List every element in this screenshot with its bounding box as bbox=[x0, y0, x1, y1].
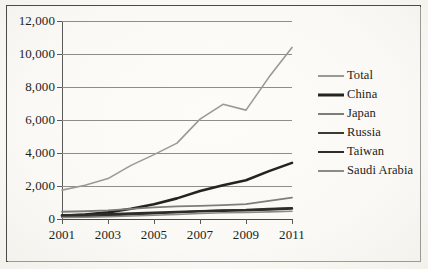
x-axis-label: 2011 bbox=[279, 227, 305, 243]
figure-page: 02,0004,0006,0008,00010,00012,000 200120… bbox=[0, 0, 428, 269]
series-line-china bbox=[62, 163, 292, 216]
legend-item-saudi-arabia[interactable]: Saudi Arabia bbox=[318, 161, 422, 180]
x-tick-2011 bbox=[292, 219, 293, 224]
legend-swatch-russia bbox=[318, 127, 344, 139]
x-tick-2001 bbox=[62, 219, 63, 224]
legend-label-total: Total bbox=[344, 68, 373, 83]
legend-label-saudi-arabia: Saudi Arabia bbox=[344, 163, 413, 178]
legend-swatch-china bbox=[318, 89, 344, 101]
legend-item-total[interactable]: Total bbox=[318, 66, 422, 85]
legend-swatch-saudi-arabia bbox=[318, 165, 344, 177]
chart-legend: TotalChinaJapanRussiaTaiwanSaudi Arabia bbox=[318, 66, 422, 180]
legend-label-taiwan: Taiwan bbox=[344, 144, 384, 159]
plot-area: 02,0004,0006,0008,00010,00012,000 200120… bbox=[62, 21, 292, 219]
x-axis-label: 2001 bbox=[49, 227, 75, 243]
y-axis-label: 0 bbox=[48, 211, 55, 227]
x-axis-label: 2005 bbox=[141, 227, 167, 243]
y-axis-label: 8,000 bbox=[25, 79, 55, 95]
series-line-total bbox=[62, 47, 292, 190]
y-axis-label: 6,000 bbox=[25, 112, 55, 128]
series-lines bbox=[62, 21, 292, 219]
x-tick-2009 bbox=[246, 219, 247, 224]
x-axis-label: 2003 bbox=[95, 227, 121, 243]
legend-label-china: China bbox=[344, 87, 377, 102]
legend-item-russia[interactable]: Russia bbox=[318, 123, 422, 142]
x-tick-2007 bbox=[200, 219, 201, 224]
legend-item-japan[interactable]: Japan bbox=[318, 104, 422, 123]
x-tick-2005 bbox=[154, 219, 155, 224]
legend-item-china[interactable]: China bbox=[318, 85, 422, 104]
y-axis-label: 2,000 bbox=[25, 178, 55, 194]
x-axis-label: 2007 bbox=[187, 227, 213, 243]
x-tick-2003 bbox=[108, 219, 109, 224]
y-axis-label: 12,000 bbox=[19, 13, 55, 29]
x-axis-label: 2009 bbox=[233, 227, 259, 243]
legend-swatch-taiwan bbox=[318, 146, 344, 158]
legend-item-taiwan[interactable]: Taiwan bbox=[318, 142, 422, 161]
legend-label-japan: Japan bbox=[344, 106, 376, 121]
legend-swatch-japan bbox=[318, 108, 344, 120]
y-axis-label: 4,000 bbox=[25, 145, 55, 161]
gridline-0 bbox=[62, 219, 292, 220]
legend-label-russia: Russia bbox=[344, 125, 381, 140]
legend-swatch-total bbox=[318, 70, 344, 82]
y-axis-label: 10,000 bbox=[19, 46, 55, 62]
